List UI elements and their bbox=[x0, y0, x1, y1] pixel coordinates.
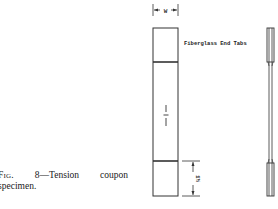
width-dimension-label: W bbox=[164, 8, 168, 15]
top-end-tab bbox=[267, 28, 274, 62]
tab-length-label: 1½ bbox=[194, 175, 201, 183]
coupon-side-view bbox=[267, 28, 274, 196]
coupon-drawing: W 1½ bbox=[0, 0, 278, 209]
bottom-end-tab bbox=[267, 163, 274, 196]
coupon-front-view bbox=[153, 28, 178, 196]
